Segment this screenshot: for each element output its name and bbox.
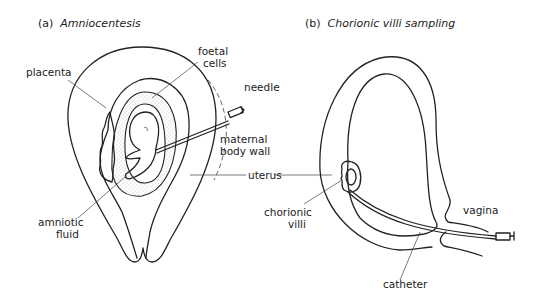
label-chorionic-2: villi <box>288 218 306 230</box>
label-chorionic-1: chorionic <box>264 206 312 218</box>
panel-b-name: Chorionic villi sampling <box>328 17 456 30</box>
label-foetal-cells-2: cells <box>203 57 227 69</box>
uterus-inner-wall-b <box>348 74 438 236</box>
label-uterus: uterus <box>248 169 282 181</box>
uterus-outer-wall-b <box>320 57 488 256</box>
panel-b-prefix: (b) <box>305 17 321 30</box>
label-placenta: placenta <box>26 66 71 78</box>
fetus <box>125 112 158 179</box>
maternal-body-wall-line <box>208 80 226 180</box>
label-needle: needle <box>244 81 280 93</box>
label-vagina: vagina <box>463 204 498 216</box>
panel-b-title: (b) Chorionic villi sampling <box>305 17 455 30</box>
panel-a-title: (a) Amniocentesis <box>38 17 141 30</box>
label-maternal-1: maternal <box>220 133 267 145</box>
amniotic-sac <box>112 92 177 196</box>
cvs-illustration <box>304 57 514 280</box>
label-catheter: catheter <box>383 278 427 290</box>
panel-a-prefix: (a) <box>38 17 53 30</box>
panel-a-name: Amniocentesis <box>60 17 140 30</box>
label-amniotic-2: fluid <box>56 228 79 240</box>
label-maternal-2: body wall <box>220 145 270 157</box>
chorionic-villi <box>341 161 361 192</box>
label-amniotic-1: amniotic <box>38 216 83 228</box>
label-foetal-cells-1: foetal <box>198 45 228 57</box>
